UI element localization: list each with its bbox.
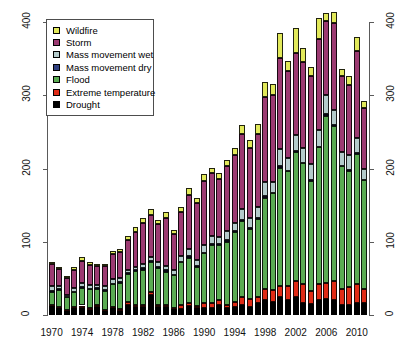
bar-segment-storm xyxy=(308,76,314,164)
bar-2001 xyxy=(285,22,291,315)
bar-segment-storm xyxy=(285,71,291,157)
bar-segment-storm xyxy=(339,76,345,152)
bar-segment-mass-movement-wet xyxy=(247,218,253,228)
bar-segment-drought xyxy=(94,307,100,315)
bar-segment-wildfire xyxy=(300,48,306,62)
bar-segment-drought xyxy=(262,300,268,315)
bar-segment-mass-movement-wet xyxy=(277,149,283,167)
bar-segment-wildfire xyxy=(148,209,154,216)
bar-segment-drought xyxy=(354,303,360,315)
bar-segment-extreme-temperature xyxy=(293,281,299,296)
bar-segment-mass-movement-wet xyxy=(64,295,70,297)
bar-1986 xyxy=(171,22,177,315)
bar-segment-drought xyxy=(239,305,245,315)
bar-2006 xyxy=(323,22,329,315)
bar-segment-mass-movement-wet xyxy=(201,245,207,252)
bar-1994 xyxy=(232,22,238,315)
bar-segment-drought xyxy=(216,305,222,315)
bar-segment-flood xyxy=(49,292,55,306)
bar-segment-storm xyxy=(171,234,177,271)
bar-segment-wildfire xyxy=(194,198,200,203)
right-y-tick-label: 200 xyxy=(377,162,399,173)
bar-segment-drought xyxy=(171,309,177,315)
bar-segment-drought xyxy=(79,308,85,315)
bar-segment-mass-movement-wet xyxy=(79,283,85,287)
bar-segment-flood xyxy=(308,181,314,291)
bar-segment-drought xyxy=(186,306,192,315)
bar-segment-storm xyxy=(331,23,337,109)
bar-segment-extreme-temperature xyxy=(316,284,322,300)
bar-segment-mass-movement-wet xyxy=(140,264,146,268)
legend-swatch-icon xyxy=(53,101,60,108)
bar-segment-drought xyxy=(346,305,352,315)
bar-segment-drought xyxy=(140,307,146,315)
legend-item-label: Storm xyxy=(66,37,91,48)
legend-item-label: Wildfire xyxy=(66,25,98,36)
bar-segment-extreme-temperature xyxy=(270,290,276,302)
legend-item-label: Mass movement wet xyxy=(66,49,153,60)
bar-segment-drought xyxy=(209,308,215,315)
bar-segment-flood xyxy=(163,272,169,305)
bar-segment-mass-movement-wet xyxy=(232,223,238,231)
bar-segment-wildfire xyxy=(94,264,100,266)
right-y-tick xyxy=(370,95,374,96)
right-y-tick-label: 300 xyxy=(377,88,399,99)
bar-segment-mass-movement-wet xyxy=(110,279,116,283)
bar-segment-mass-movement-wet xyxy=(117,278,123,282)
bar-segment-drought xyxy=(117,311,123,315)
bar-1996 xyxy=(247,22,253,315)
bar-segment-mass-movement-wet xyxy=(163,266,169,270)
bar-segment-extreme-temperature xyxy=(277,286,283,296)
bar-segment-extreme-temperature xyxy=(361,289,367,304)
bar-segment-mass-movement-wet xyxy=(224,231,230,241)
bar-segment-wildfire xyxy=(102,264,108,266)
bar-segment-storm xyxy=(323,21,329,96)
bar-segment-flood xyxy=(346,171,352,287)
bar-segment-flood xyxy=(339,166,345,289)
bar-segment-flood xyxy=(125,274,131,302)
bar-segment-mass-movement-wet xyxy=(270,182,276,193)
x-tick-label: 1990 xyxy=(188,327,220,338)
left-y-tick xyxy=(43,315,47,316)
bar-segment-drought xyxy=(133,307,139,315)
bar-segment-flood xyxy=(178,262,184,304)
bar-segment-storm xyxy=(133,232,139,267)
bar-1985 xyxy=(163,22,169,315)
bar-segment-extreme-temperature xyxy=(163,305,169,307)
bar-segment-storm xyxy=(87,265,93,285)
bar-segment-storm xyxy=(186,195,192,249)
bar-segment-flood xyxy=(140,270,146,306)
bar-segment-wildfire xyxy=(49,262,55,265)
bar-segment-storm xyxy=(79,261,85,283)
x-tick-label: 1986 xyxy=(158,327,190,338)
bar-segment-extreme-temperature xyxy=(194,306,200,308)
bar-segment-mass-movement-wet xyxy=(216,237,222,244)
bar-segment-flood xyxy=(262,198,268,289)
bar-segment-flood xyxy=(270,193,276,290)
bar-1988 xyxy=(186,22,192,315)
bar-segment-drought xyxy=(64,311,70,315)
bar-1991 xyxy=(209,22,215,315)
bar-segment-mass-movement-wet xyxy=(71,288,77,292)
bar-segment-flood xyxy=(94,289,100,306)
bar-segment-drought xyxy=(361,303,367,315)
bar-segment-mass-movement-wet xyxy=(255,207,261,217)
bar-segment-extreme-temperature xyxy=(300,284,306,303)
bar-segment-storm xyxy=(125,240,131,269)
bar-segment-drought xyxy=(155,307,161,315)
bar-segment-mass-movement-wet xyxy=(293,135,299,151)
bar-segment-storm xyxy=(148,215,154,257)
bar-segment-wildfire xyxy=(308,67,314,76)
bar-segment-extreme-temperature xyxy=(209,303,215,309)
bar-segment-extreme-temperature xyxy=(247,299,253,307)
left-y-tick-label: 100 xyxy=(13,235,39,246)
bar-segment-extreme-temperature xyxy=(323,283,329,299)
bar-segment-mass-movement-wet xyxy=(361,169,367,179)
bar-segment-drought xyxy=(87,310,93,315)
disaster-count-stacked-bar-chart: 0100200300400 0100200300400 197019741978… xyxy=(0,0,399,363)
x-tick-label: 2006 xyxy=(310,327,342,338)
x-tick-label: 2002 xyxy=(280,327,312,338)
bar-2008 xyxy=(339,22,345,315)
bar-segment-wildfire xyxy=(87,262,93,265)
bar-2004 xyxy=(308,22,314,315)
